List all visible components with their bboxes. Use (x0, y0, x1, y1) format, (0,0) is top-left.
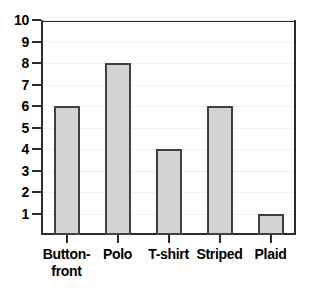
y-axis-tick-mark (32, 148, 41, 150)
y-axis-tick-mark (32, 62, 41, 64)
bar (156, 149, 182, 235)
x-axis-tick-label: Plaid (245, 246, 296, 263)
x-axis-tick-mark (270, 235, 272, 243)
bar-chart: 10987654321 Button- frontPoloT-shirtStri… (0, 0, 314, 294)
y-axis-tick-mark (32, 105, 41, 107)
y-axis-tick-label: 5 (22, 121, 30, 135)
y-axis-tick-label: 9 (22, 35, 30, 49)
x-axis-tick-label: Button- front (41, 246, 92, 280)
y-axis-tick-mark (32, 127, 41, 129)
x-axis-tick-mark (117, 235, 119, 243)
bar (105, 63, 131, 235)
y-axis: 10987654321 (0, 0, 41, 294)
y-axis-tick-mark (32, 213, 41, 215)
x-axis-tick-label: Polo (92, 246, 143, 263)
y-axis-tick-label: 6 (22, 99, 30, 113)
bar (258, 214, 284, 236)
y-axis-tick-mark (32, 170, 41, 172)
y-axis-tick-label: 1 (22, 207, 30, 221)
y-axis-tick-mark (32, 191, 41, 193)
x-axis-tick-mark (168, 235, 170, 243)
y-axis-tick-label: 7 (22, 78, 30, 92)
y-axis-tick-mark (32, 19, 41, 21)
y-axis-tick-mark (32, 41, 41, 43)
bars-group (41, 20, 296, 235)
x-axis: Button- frontPoloT-shirtStripedPlaid (41, 246, 296, 294)
x-axis-ticks (41, 235, 296, 245)
x-axis-tick-label: Striped (194, 246, 245, 263)
x-axis-tick-mark (219, 235, 221, 243)
x-axis-tick-label: T-shirt (143, 246, 194, 263)
bar (207, 106, 233, 235)
y-axis-tick-label: 3 (22, 164, 30, 178)
x-axis-tick-mark (66, 235, 68, 243)
y-axis-tick-label: 4 (22, 142, 30, 156)
bar (54, 106, 80, 235)
y-axis-tick-mark (32, 84, 41, 86)
y-axis-tick-label: 2 (22, 185, 30, 199)
y-axis-tick-label: 10 (14, 13, 29, 27)
y-axis-tick-label: 8 (22, 56, 30, 70)
